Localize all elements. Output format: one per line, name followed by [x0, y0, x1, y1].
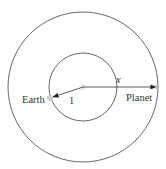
- inner-radius-arrow: [53, 87, 83, 97]
- earth-label: Earth: [22, 94, 45, 105]
- outer-radius-label: x: [115, 74, 121, 85]
- inner-radius-label: 1: [69, 95, 74, 106]
- planet-label: Planet: [126, 92, 152, 103]
- planet-body: [155, 85, 159, 89]
- earth-body: [47, 95, 53, 101]
- orbit-diagram: Earth Planet 1 x: [0, 0, 166, 169]
